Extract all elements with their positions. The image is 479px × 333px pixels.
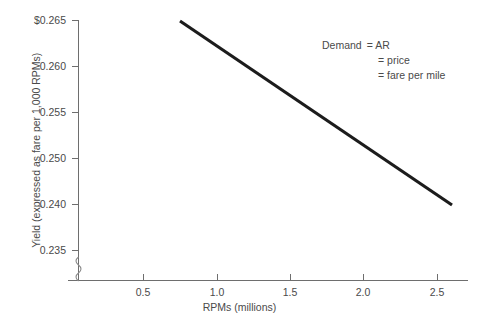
annotation-line-2: = price (322, 53, 445, 68)
y-axis-title: Yield (expressed as fare per 1,000 RPMs) (31, 30, 42, 270)
x-tick-label-1: 1.0 (210, 287, 225, 298)
annotation-price-value: = price (378, 54, 410, 66)
y-tick-label-0: $0.265 (0, 15, 66, 26)
x-tick-label-4: 2.5 (430, 287, 445, 298)
yield-vs-rpms-chart: $0.265 0.260 0.255 0.250 0.240 0.235 0.5… (0, 0, 479, 333)
annotation-fare-value: = fare per mile (378, 69, 445, 81)
annotation-line-1: Demand= AR (322, 38, 445, 53)
annotation-demand-label: Demand (322, 39, 362, 51)
demand-annotation: Demand= AR = price = fare per mile (322, 38, 445, 83)
annotation-line-3: = fare per mile (322, 68, 445, 83)
x-tick-label-3: 2.0 (356, 287, 371, 298)
x-tick-label-2: 1.5 (283, 287, 298, 298)
annotation-demand-value: = AR (367, 39, 390, 51)
x-tick-label-0: 0.5 (136, 287, 151, 298)
x-axis-title: RPMs (millions) (0, 302, 479, 313)
